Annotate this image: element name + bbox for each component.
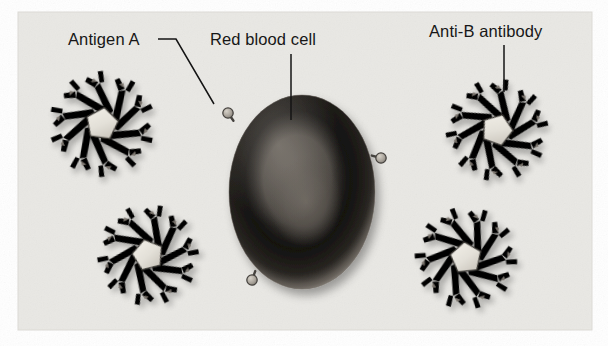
rbc-body <box>229 95 375 289</box>
label-antigen-a-text: Antigen A <box>68 30 140 48</box>
blood-typing-diagram: Antigen A Red blood cell Anti-B antibody <box>0 0 608 350</box>
label-antigen-a: Antigen A <box>68 30 140 48</box>
label-red-blood-cell: Red blood cell <box>210 30 316 48</box>
red-blood-cell <box>229 95 375 289</box>
label-red-blood-cell-text: Red blood cell <box>210 30 316 48</box>
label-anti-b-antibody-text: Anti-B antibody <box>429 22 543 40</box>
illustration-stage: Antigen A Red blood cell Anti-B antibody <box>0 0 608 350</box>
label-anti-b-antibody: Anti-B antibody <box>429 22 543 40</box>
